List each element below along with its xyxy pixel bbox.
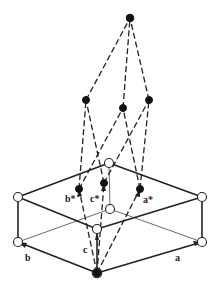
dash-midleft-apex (86, 18, 130, 100)
node-bottom-left-icon (14, 238, 23, 247)
node-bstar-icon (76, 186, 83, 193)
edge-hidden-vertical (109, 163, 110, 209)
dash-astar-midcenter (123, 108, 140, 189)
node-top-back-icon (105, 159, 114, 168)
reciprocal-lattice-diagram: b* c* a* c b a (0, 0, 215, 290)
node-mid-center-icon (120, 105, 127, 112)
dash-origin-astar (97, 189, 140, 273)
dash-midright-apex (130, 18, 149, 100)
reciprocal-construction-lines (79, 18, 149, 273)
node-bottom-right-icon (198, 238, 207, 247)
vector-a (97, 242, 202, 273)
edge-top-left-front (18, 197, 97, 229)
label-c: c (83, 244, 88, 255)
hidden-edges (18, 163, 202, 242)
label-a-star: a* (143, 194, 153, 205)
dash-bstar-midcenter (79, 108, 123, 189)
edge-top-left-back (18, 163, 109, 197)
node-mid-right-icon (146, 97, 153, 104)
node-top-front-icon (93, 225, 102, 234)
node-apex-icon (126, 14, 134, 22)
label-b: b (25, 252, 31, 263)
node-astar-icon (137, 186, 144, 193)
node-cstar-icon (101, 180, 108, 187)
node-origin-icon (93, 269, 101, 277)
node-top-right-icon (198, 193, 207, 202)
node-mid-left-icon (83, 97, 90, 104)
dash-bstar-midleft (79, 100, 86, 189)
dash-midcenter-apex (123, 18, 130, 108)
label-a: a (175, 252, 180, 263)
edge-top-back-right (109, 163, 202, 197)
label-b-star: b* (65, 193, 76, 204)
node-top-left-icon (14, 193, 23, 202)
edge-hidden-right (110, 209, 202, 242)
node-bottom-back-icon (106, 205, 115, 214)
reciprocal-lattice-nodes (76, 14, 153, 278)
label-c-star: c* (90, 193, 99, 204)
